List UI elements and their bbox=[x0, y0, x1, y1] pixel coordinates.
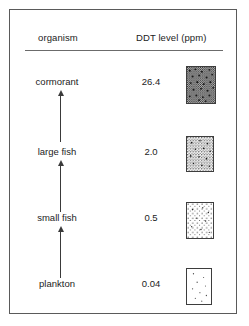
arrow-plankton-to-small-fish bbox=[56, 226, 65, 278]
concentration-swatch-large-fish bbox=[186, 136, 214, 172]
diagram-frame: organism DDT level (ppm) cormorant 26.4 bbox=[9, 9, 237, 314]
column-header-row: organism DDT level (ppm) bbox=[10, 32, 236, 50]
organism-label-plankton: plankton bbox=[2, 278, 112, 289]
stipple-pattern-high bbox=[187, 137, 213, 171]
organism-label-cormorant: cormorant bbox=[2, 76, 112, 87]
arrow-shaft bbox=[60, 95, 61, 142]
column-header-ddt-level: DDT level (ppm) bbox=[136, 32, 206, 43]
concentration-swatch-small-fish bbox=[186, 202, 214, 239]
arrow-head-up-icon bbox=[58, 160, 64, 166]
arrow-large-fish-to-cormorant bbox=[56, 90, 65, 142]
arrow-shaft bbox=[60, 165, 61, 212]
arrow-head-up-icon bbox=[58, 226, 64, 232]
stipple-pattern-very-high bbox=[187, 67, 215, 103]
ddt-value-small-fish: 0.5 bbox=[128, 212, 174, 223]
ddt-value-plankton: 0.04 bbox=[128, 278, 174, 289]
arrow-small-fish-to-large-fish bbox=[56, 160, 65, 212]
arrow-shaft bbox=[60, 231, 61, 278]
column-header-organism: organism bbox=[38, 32, 78, 43]
stipple-pattern-very-low bbox=[187, 269, 211, 304]
ddt-value-large-fish: 2.0 bbox=[128, 146, 174, 157]
organism-label-large-fish: large fish bbox=[2, 146, 112, 157]
stipple-pattern-medium bbox=[187, 203, 213, 238]
concentration-swatch-cormorant bbox=[186, 66, 216, 104]
header-divider bbox=[25, 50, 223, 51]
concentration-swatch-plankton bbox=[186, 268, 212, 305]
organism-label-small-fish: small fish bbox=[2, 212, 112, 223]
ddt-value-cormorant: 26.4 bbox=[128, 76, 174, 87]
arrow-head-up-icon bbox=[58, 90, 64, 96]
